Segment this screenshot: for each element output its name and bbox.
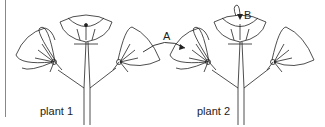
arrow-a xyxy=(143,42,185,52)
plant-2-drawing xyxy=(170,5,314,125)
arrow-b-label: B xyxy=(244,9,251,21)
arrow-a-label: A xyxy=(163,30,170,42)
plant-1-drawing xyxy=(16,15,160,125)
plant-2-label: plant 2 xyxy=(197,105,230,117)
plant-1-label: plant 1 xyxy=(40,105,73,117)
